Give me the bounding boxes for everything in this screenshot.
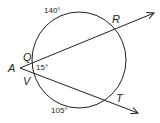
secant-ray-AR xyxy=(20,13,154,68)
point-label-R: R xyxy=(112,14,120,25)
circle xyxy=(32,12,126,108)
point-label-T: T xyxy=(116,93,123,104)
point-label-V: V xyxy=(23,76,30,87)
secant-ray-AT xyxy=(20,68,138,113)
arc-label-105: 105° xyxy=(51,107,68,115)
arc-label-140: 140° xyxy=(44,7,61,15)
angle-label-15: 15° xyxy=(36,64,48,72)
point-label-Q: Q xyxy=(23,52,32,63)
point-label-A: A xyxy=(8,63,15,74)
